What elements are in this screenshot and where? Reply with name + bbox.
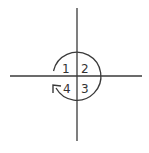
quadrant-diagram: 1 2 3 4 xyxy=(0,0,149,153)
quadrant-label-1: 1 xyxy=(62,62,70,76)
quadrant-label-2: 2 xyxy=(81,62,89,76)
quadrant-label-3: 3 xyxy=(81,82,89,96)
quadrant-label-4: 4 xyxy=(63,82,71,96)
